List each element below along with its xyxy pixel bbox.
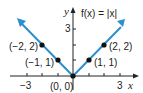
y-tick-3: 3 bbox=[65, 23, 71, 34]
point-origin bbox=[70, 73, 75, 78]
y-axis-label: y bbox=[63, 5, 69, 17]
point-2 bbox=[101, 42, 106, 47]
x-axis-arrow-icon bbox=[133, 74, 139, 79]
right-arrow-icon bbox=[117, 19, 125, 27]
point-1 bbox=[86, 57, 91, 62]
point-neg2 bbox=[39, 42, 44, 47]
point-label-origin: (0, 0) bbox=[50, 81, 73, 92]
x-tick-3: 3 bbox=[117, 80, 123, 91]
point-label-neg2: (−2, 2) bbox=[9, 41, 38, 52]
point-label-neg1: (−1, 1) bbox=[25, 57, 54, 68]
point-neg1 bbox=[55, 57, 60, 62]
x-axis-label: x bbox=[127, 79, 133, 91]
function-label: f(x) = |x| bbox=[81, 8, 117, 19]
point-label-2: (2, 2) bbox=[109, 41, 132, 52]
abs-value-graph: y 3 f(x) = |x| (−2, 2) (−1, 1) (0, 0) (1… bbox=[0, 0, 143, 93]
y-axis-arrow-icon bbox=[71, 7, 76, 13]
x-tick-neg3: −3 bbox=[20, 80, 32, 91]
point-label-1: (1, 1) bbox=[94, 57, 117, 68]
